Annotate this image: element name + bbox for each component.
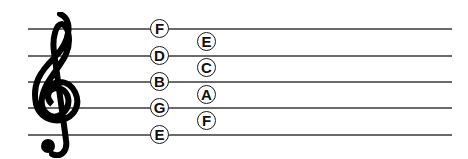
space-note-3: A [197,85,216,104]
staff-line-2 [28,55,452,57]
line-note-3: B [150,72,169,91]
space-note-4: F [197,111,216,130]
space-note-2: C [197,58,216,77]
staff-line-5 [28,134,452,136]
line-note-5: E [150,125,169,144]
line-note-1: F [150,19,169,38]
line-note-2: D [150,46,169,65]
line-note-4: G [150,98,169,117]
treble-clef-icon [30,12,82,158]
staff-line-4 [28,107,452,109]
space-note-1: E [197,32,216,51]
staff-line-1 [28,28,452,30]
staff-line-3 [28,81,452,83]
